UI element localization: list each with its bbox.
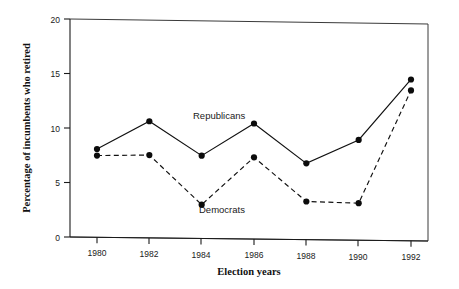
data-point <box>199 153 205 159</box>
y-tick-label-5: 5 <box>55 178 60 188</box>
x-tick-label-1990: 1990 <box>349 252 368 262</box>
democrats-markers <box>94 87 414 207</box>
x-axis-line <box>70 237 428 241</box>
data-point <box>146 152 152 158</box>
y-tick-label-15: 15 <box>51 69 61 79</box>
x-axis-title: Election years <box>217 266 280 277</box>
x-tick-label-1984: 1984 <box>192 250 211 260</box>
series-annotation-republicans: Republicans <box>193 110 246 121</box>
y-tick-label-10: 10 <box>51 124 61 134</box>
x-axis: 1980 1982 1984 1986 1988 1990 1992 <box>70 237 428 262</box>
data-point <box>146 118 152 124</box>
data-point <box>94 152 100 158</box>
data-point <box>408 87 414 93</box>
y-axis: 20 15 10 5 0 <box>51 15 70 243</box>
line-chart: 20 15 10 5 0 1980 1982 1984 1986 1988 19… <box>0 0 459 289</box>
data-point <box>356 200 362 206</box>
data-point <box>303 198 309 204</box>
republicans-markers <box>94 76 414 166</box>
data-point <box>356 137 362 143</box>
x-tick-label-1980: 1980 <box>88 248 107 258</box>
y-axis-title: Percentage of incumbents who retired <box>21 43 32 213</box>
frame-top <box>70 19 428 24</box>
x-tick-label-1988: 1988 <box>297 251 316 261</box>
y-tick-label-20: 20 <box>51 15 61 25</box>
data-point <box>303 160 309 166</box>
series-republicans <box>94 76 414 166</box>
plot-frame <box>70 19 428 241</box>
series-democrats <box>94 87 414 207</box>
data-point <box>408 76 414 82</box>
data-point <box>251 154 257 160</box>
y-tick-label-0: 0 <box>55 233 60 243</box>
series-annotation-democrats: Democrats <box>199 204 245 215</box>
chart-page: 20 15 10 5 0 1980 1982 1984 1986 1988 19… <box>0 0 459 289</box>
x-tick-label-1982: 1982 <box>140 249 159 259</box>
x-tick-label-1986: 1986 <box>245 250 264 260</box>
data-point <box>94 146 100 152</box>
data-point <box>251 120 257 126</box>
democrats-line <box>97 90 411 204</box>
x-tick-label-1992: 1992 <box>402 252 421 262</box>
